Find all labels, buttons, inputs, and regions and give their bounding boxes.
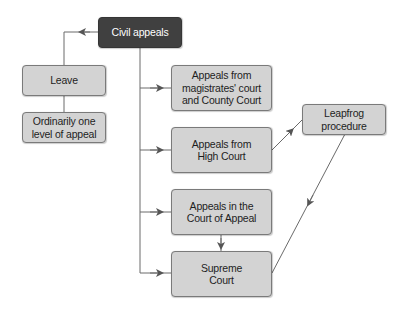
node-label: Ordinarily one level of appeal [32, 115, 97, 140]
node-label: Civil appeals [112, 26, 169, 39]
node-leave: Leave [22, 65, 106, 96]
edge-leapfrog-to-supreme [272, 134, 345, 273]
node-label: Leapfrog procedure [321, 107, 366, 132]
node-label: Appeals from High Court [192, 138, 251, 163]
node-civil-appeals: Civil appeals [98, 17, 182, 48]
node-label: Leave [50, 74, 78, 87]
node-ordinarily-one-level: Ordinarily one level of appeal [22, 112, 106, 143]
node-label: Appeals from magistrates' court and Coun… [182, 69, 261, 107]
edge-civil-to-leave [64, 32, 98, 65]
civil-appeals-diagram: Civil appeals Leave Ordinarily one level… [0, 0, 405, 313]
node-appeals-court-of-appeal: Appeals in the Court of Appeal [171, 189, 272, 235]
node-appeals-high-court: Appeals from High Court [171, 127, 272, 173]
node-leapfrog-procedure: Leapfrog procedure [302, 104, 386, 135]
node-label: Supreme Court [201, 262, 242, 287]
node-supreme-court: Supreme Court [171, 251, 272, 297]
node-label: Appeals in the Court of Appeal [187, 200, 256, 225]
node-appeals-magistrates: Appeals from magistrates' court and Coun… [171, 65, 272, 111]
